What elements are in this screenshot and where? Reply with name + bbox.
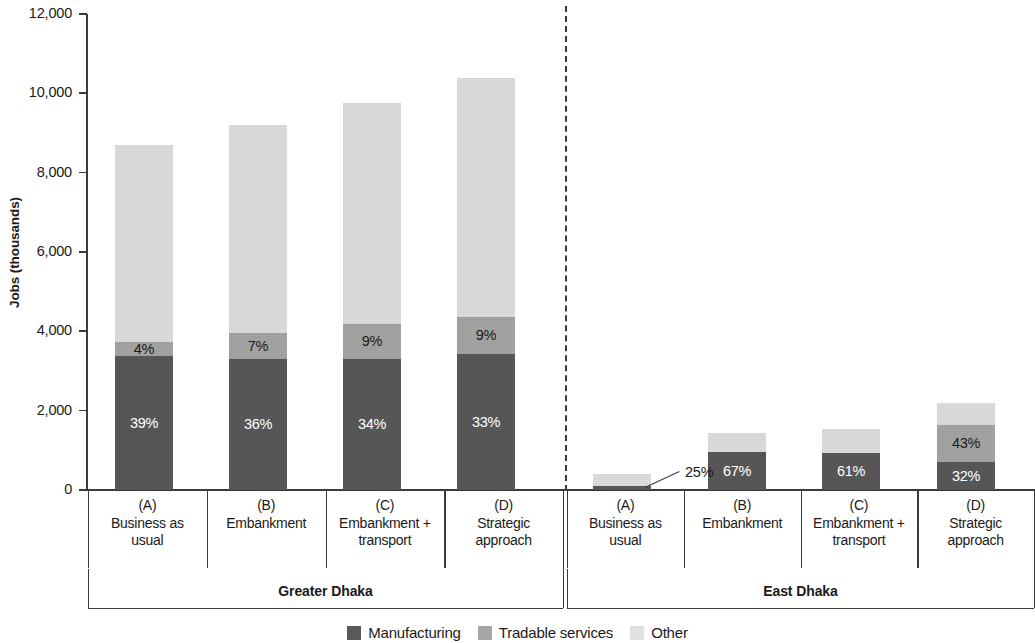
- legend-item-tradable-services: Tradable services: [478, 624, 613, 641]
- legend-swatch-tradable-services: [478, 626, 492, 640]
- category-label-east-dhaka-c[interactable]: (C)Embankment + transport: [801, 497, 918, 550]
- bar-segment-tradable-services[interactable]: 9%: [343, 324, 401, 359]
- legend-label-manufacturing: Manufacturing: [368, 624, 460, 641]
- y-tick-label-10000: 10,000: [0, 85, 72, 100]
- segment-value-label: 7%: [229, 338, 287, 354]
- y-tick-label-6000: 6,000: [0, 244, 72, 259]
- category-name: Strategic approach: [444, 515, 563, 550]
- bar-segment-other[interactable]: [229, 125, 287, 333]
- y-tick-label-4000: 4,000: [0, 323, 72, 338]
- bar-segment-other[interactable]: [457, 78, 515, 317]
- bar-segment-manufacturing[interactable]: 34%: [343, 359, 401, 490]
- plot-area: 4%39%7%36%9%34%9%33%67%61%43%32%: [88, 14, 1035, 490]
- category-name: Strategic approach: [917, 515, 1034, 550]
- category-band-inner-gap: [88, 568, 563, 569]
- category-separator: [326, 491, 327, 568]
- category-name: Embankment + transport: [326, 515, 445, 550]
- legend: Manufacturing Tradable services Other: [0, 624, 1035, 641]
- legend-label-other: Other: [651, 624, 688, 641]
- legend-item-other: Other: [630, 624, 688, 641]
- bar-segment-manufacturing[interactable]: 32%: [937, 462, 995, 490]
- category-label-greater-dhaka-d[interactable]: (D)Strategic approach: [444, 497, 563, 550]
- bar-segment-other[interactable]: [822, 429, 880, 453]
- bar-segment-other[interactable]: [593, 474, 651, 486]
- bar-east-dhaka-b[interactable]: 67%: [708, 433, 766, 491]
- bar-greater-dhaka-d[interactable]: 9%33%: [457, 78, 515, 491]
- grain-texture: [229, 125, 287, 333]
- segment-value-label: 43%: [937, 435, 995, 451]
- grain-texture: [937, 403, 995, 425]
- segment-value-label: 33%: [457, 414, 515, 430]
- category-label-east-dhaka-a[interactable]: (A)Business as usual: [567, 497, 684, 550]
- category-code: (B): [207, 497, 326, 515]
- segment-value-label: 32%: [937, 468, 995, 484]
- grain-texture: [593, 486, 651, 490]
- category-separator: [444, 491, 445, 568]
- category-label-greater-dhaka-a[interactable]: (A)Business as usual: [88, 497, 207, 550]
- category-separator: [207, 491, 208, 568]
- bar-segment-manufacturing[interactable]: 61%: [822, 453, 880, 490]
- callout-label-25: 25%: [685, 464, 713, 480]
- category-band-bottom-rule: [567, 608, 1034, 609]
- bar-segment-tradable-services[interactable]: 4%: [115, 342, 173, 356]
- segment-value-label: 39%: [115, 415, 173, 431]
- category-separator: [917, 491, 918, 568]
- legend-swatch-manufacturing: [347, 626, 361, 640]
- legend-swatch-other: [630, 626, 644, 640]
- legend-item-manufacturing: Manufacturing: [347, 624, 460, 641]
- category-code: (A): [567, 497, 684, 515]
- category-name: Business as usual: [88, 515, 207, 550]
- bar-segment-tradable-services[interactable]: 9%: [457, 317, 515, 354]
- category-code: (D): [444, 497, 563, 515]
- category-name: Embankment + transport: [801, 515, 918, 550]
- segment-value-label: 9%: [457, 327, 515, 343]
- category-name: Business as usual: [567, 515, 684, 550]
- grain-texture: [593, 474, 651, 486]
- category-band-bottom-rule: [88, 608, 563, 609]
- category-band-frame-line: [563, 491, 564, 608]
- group-title-east-dhaka: East Dhaka: [567, 583, 1034, 599]
- bar-east-dhaka-d[interactable]: 43%32%: [937, 403, 995, 490]
- category-code: (B): [684, 497, 801, 515]
- bar-segment-other[interactable]: [708, 433, 766, 452]
- category-label-east-dhaka-b[interactable]: (B)Embankment: [684, 497, 801, 532]
- bar-segment-other[interactable]: [115, 145, 173, 342]
- category-label-greater-dhaka-b[interactable]: (B)Embankment: [207, 497, 326, 532]
- bar-segment-manufacturing[interactable]: 36%: [229, 359, 287, 490]
- category-code: (C): [801, 497, 918, 515]
- bar-segment-manufacturing[interactable]: 67%: [708, 452, 766, 490]
- segment-value-label: 9%: [343, 333, 401, 349]
- category-code: (C): [326, 497, 445, 515]
- bar-segment-manufacturing[interactable]: 33%: [457, 354, 515, 490]
- bar-segment-tradable-services[interactable]: 7%: [229, 333, 287, 359]
- bar-greater-dhaka-b[interactable]: 7%36%: [229, 125, 287, 490]
- segment-value-label: 4%: [115, 341, 173, 357]
- category-code: (A): [88, 497, 207, 515]
- stacked-bar-chart: Jobs (thousands) 02,0004,0006,0008,00010…: [0, 0, 1035, 643]
- bar-greater-dhaka-c[interactable]: 9%34%: [343, 103, 401, 490]
- grain-texture: [708, 433, 766, 452]
- bar-segment-manufacturing[interactable]: 39%: [115, 356, 173, 490]
- grain-texture: [822, 429, 880, 453]
- category-name: Embankment: [207, 515, 326, 533]
- grain-texture: [115, 145, 173, 342]
- grain-texture: [343, 103, 401, 324]
- group-divider: [565, 6, 567, 491]
- category-label-east-dhaka-d[interactable]: (D)Strategic approach: [917, 497, 1034, 550]
- bar-segment-other[interactable]: [937, 403, 995, 425]
- bar-greater-dhaka-a[interactable]: 4%39%: [115, 145, 173, 490]
- y-tick-label-0: 0: [0, 482, 72, 497]
- bar-east-dhaka-a[interactable]: [593, 474, 651, 490]
- category-label-greater-dhaka-c[interactable]: (C)Embankment + transport: [326, 497, 445, 550]
- category-separator: [801, 491, 802, 568]
- segment-value-label: 61%: [822, 463, 880, 479]
- grain-texture: [457, 78, 515, 317]
- y-tick-label-12000: 12,000: [0, 6, 72, 21]
- bar-segment-tradable-services[interactable]: 43%: [937, 425, 995, 462]
- y-tick-label-2000: 2,000: [0, 403, 72, 418]
- bar-segment-other[interactable]: [343, 103, 401, 324]
- category-band-inner-gap: [567, 568, 1034, 569]
- bar-east-dhaka-c[interactable]: 61%: [822, 429, 880, 490]
- segment-value-label: 67%: [708, 463, 766, 479]
- bar-segment-manufacturing[interactable]: [593, 486, 651, 490]
